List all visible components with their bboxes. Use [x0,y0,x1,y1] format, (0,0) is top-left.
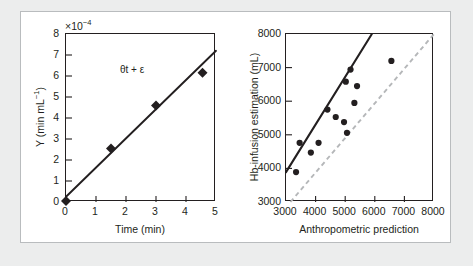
left-xtick-label: 1 [92,205,98,217]
right-y-axis-title: Hb-infusion estimation (mL) [248,53,260,181]
right-xtick-label: 4000 [303,205,326,217]
left-xtick-label: 2 [122,205,128,217]
right-xtick-marks [316,196,405,202]
left-chart-panel: ×10−4 [21,12,237,244]
right-chart-panel: 8000 7000 6000 5000 4000 3000 3000 4000 … [237,12,452,244]
left-xtick-label: 4 [182,205,188,217]
right-identity-line [290,34,434,202]
right-xtick-label: 5000 [333,205,356,217]
right-xtick-label: 6000 [362,205,385,217]
left-xtick-label: 3 [152,205,158,217]
left-ytick-label: 8 [35,27,59,39]
right-ytick-label: 8000 [251,27,281,39]
left-y-axis-title: Y (min mL−1) [32,87,46,147]
left-xtick-label: 0 [62,205,68,217]
left-ytick-marks [66,55,72,181]
left-x-axis-title: Time (min) [115,223,165,235]
left-ytick-label: 7 [35,48,59,60]
left-plot-axes: θt + ε [65,33,215,201]
right-ytick-marks [286,68,292,169]
left-ytick-label: 1 [35,174,59,186]
model-annotation: θt + ε [120,64,144,75]
y-axis-exponent-label: ×10−4 [65,18,91,32]
right-data-markers [293,58,395,175]
left-xtick-label: 5 [212,205,218,217]
left-xtick-marks [96,196,186,202]
right-fit-line [286,34,372,172]
left-plot-svg [66,34,216,202]
left-data-markers [61,68,208,206]
left-ytick-label: 2 [35,153,59,165]
figure-panel: ×10−4 [20,11,451,243]
right-xtick-label: 3000 [273,205,296,217]
right-xtick-label: 7000 [392,205,415,217]
right-xtick-label: 8000 [421,205,444,217]
right-plot-svg [286,34,434,202]
left-ytick-label: 6 [35,69,59,81]
right-x-axis-title: Anthropometric prediction [299,223,419,235]
right-plot-axes [285,33,433,201]
left-ytick-label: 0 [35,195,59,207]
